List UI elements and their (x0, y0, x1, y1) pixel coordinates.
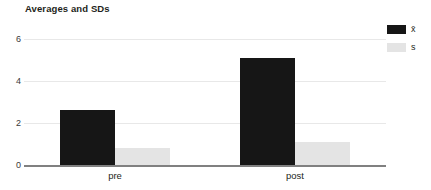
chart-title: Averages and SDs (25, 3, 110, 14)
bar-pre-sd[interactable] (115, 148, 170, 165)
x-category-label-pre: pre (108, 170, 122, 181)
y-tick-label-2: 2 (3, 118, 21, 128)
legend-item-sd[interactable]: s (387, 40, 427, 54)
chart-container: Averages and SDs 6 4 2 0 pre post x̄ (0, 0, 431, 190)
bar-group-post (240, 39, 350, 165)
plot-area (24, 39, 386, 165)
legend-swatch-sd-icon (387, 43, 406, 52)
bar-pre-mean[interactable] (60, 110, 115, 165)
legend-swatch-mean-icon (387, 25, 406, 34)
bar-post-sd[interactable] (295, 142, 350, 165)
chart-legend: x̄ s (387, 22, 427, 58)
y-axis-tick-labels: 6 4 2 0 (0, 0, 21, 190)
bar-post-mean[interactable] (240, 58, 295, 165)
bar-group-pre (60, 39, 170, 165)
x-axis-line (24, 165, 386, 167)
legend-label-mean: x̄ (411, 25, 416, 34)
y-tick-label-6: 6 (3, 34, 21, 44)
y-tick-label-4: 4 (3, 76, 21, 86)
y-tick-label-0: 0 (3, 160, 21, 170)
x-category-label-post: post (286, 170, 304, 181)
legend-item-mean[interactable]: x̄ (387, 22, 427, 36)
legend-label-sd: s (411, 43, 416, 52)
